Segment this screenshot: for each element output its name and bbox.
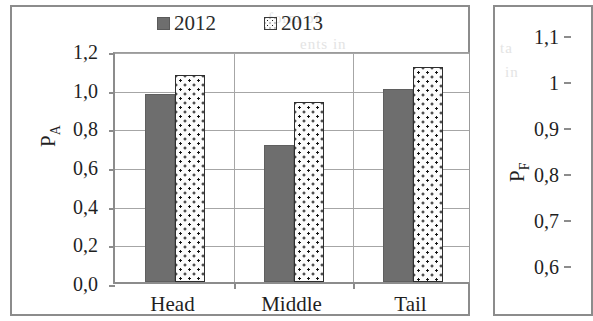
legend-swatch-solid-icon — [157, 17, 170, 30]
y-tick-mark-right — [564, 266, 571, 268]
chart-panel-pf: PF 1,110,90,80,70,6 — [493, 5, 593, 316]
y-tick-label: 0,8 — [73, 119, 98, 139]
x-tick-mark — [234, 282, 236, 289]
legend-label-2013: 2013 — [281, 13, 323, 34]
y-tick-mark — [109, 92, 115, 94]
x-label-middle: Middle — [232, 292, 351, 321]
y-tick-label-right: 0,7 — [534, 211, 559, 231]
category-separator — [353, 53, 354, 282]
y-tick-label: 0,6 — [73, 158, 98, 178]
y-axis-tick-labels-right: 1,110,90,80,70,6 — [515, 37, 571, 267]
bar-tail-2012 — [383, 89, 413, 282]
bar-middle-2013 — [294, 102, 324, 282]
y-tick-label: 0,0 — [73, 274, 98, 294]
y-tick-mark-right — [564, 220, 571, 222]
plot-area — [113, 52, 470, 284]
y-tick-mark — [109, 169, 115, 171]
bar-tail-2013 — [413, 67, 443, 282]
chart-legend: 2012 2013 — [12, 13, 468, 34]
y-tick-label-right: 0,8 — [534, 165, 559, 185]
y-axis-tick-labels: 0,00,20,40,60,81,01,2 — [50, 42, 102, 294]
legend-swatch-dotted-icon — [264, 17, 277, 30]
y-tick-label-right: 1,1 — [534, 27, 559, 47]
y-tick-label: 0,4 — [73, 197, 98, 217]
x-label-head: Head — [113, 292, 232, 321]
bar-head-2013 — [175, 75, 205, 282]
y-tick-label: 0,2 — [73, 235, 98, 255]
category-separator — [234, 53, 235, 282]
y-tick-mark-right — [564, 128, 571, 130]
bar-head-2012 — [145, 94, 175, 282]
y-tick-mark-right — [564, 174, 571, 176]
y-tick-mark — [109, 130, 115, 132]
bar-middle-2012 — [264, 145, 294, 282]
x-label-tail: Tail — [351, 292, 470, 321]
gridline — [115, 53, 469, 54]
y-tick-label-right: 1 — [549, 73, 559, 93]
y-tick-label: 1,2 — [73, 42, 98, 62]
y-tick-label-right: 0,9 — [534, 119, 559, 139]
y-tick-label-right: 0,6 — [534, 257, 559, 277]
chart-panel-pa: 2012 2013 PA 0,00,20,40,60,81,01,2 Head … — [10, 5, 470, 316]
y-tick-mark — [109, 208, 115, 210]
y-tick-mark — [109, 53, 115, 55]
x-tick-mark — [353, 282, 355, 289]
legend-item-2012: 2012 — [157, 13, 216, 34]
y-tick-mark-right — [564, 82, 571, 84]
y-tick-label: 1,0 — [73, 81, 98, 101]
x-axis-tick-labels: Head Middle Tail — [113, 292, 470, 321]
y-tick-mark — [109, 246, 115, 248]
legend-item-2013: 2013 — [264, 13, 323, 34]
legend-label-2012: 2012 — [174, 13, 216, 34]
y-tick-mark — [109, 285, 115, 287]
y-tick-mark-right — [564, 36, 571, 38]
